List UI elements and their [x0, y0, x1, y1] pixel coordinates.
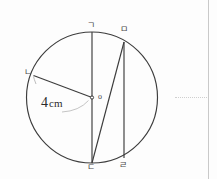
geometry-figure-page: ㄱ ㅁ ㄴ ㄷ ㄹ o 4cm [0, 0, 217, 179]
center-label-o: o [98, 93, 102, 101]
circle-diagram-canvas [0, 0, 217, 179]
vertex-label-nieun: ㄴ [24, 68, 32, 77]
vertex-label-rieul: ㄹ [119, 161, 127, 170]
radius-measurement-value: 4 [41, 95, 48, 110]
angle-arc-at-center-icon [62, 101, 89, 113]
center-point-dot [90, 96, 93, 99]
page-margin-rule [208, 0, 209, 179]
radius-measurement-label: 4cm [41, 96, 62, 110]
chord-mieum-digeut [92, 42, 124, 163]
vertex-label-mieum: ㅁ [120, 25, 128, 34]
angle-arc-at-nieun-icon [34, 77, 37, 85]
vertex-label-gieuk: ㄱ [87, 21, 95, 30]
vertex-label-digeut: ㄷ [87, 163, 95, 172]
radius-measurement-unit: cm [49, 97, 62, 109]
leader-dots-guide [175, 97, 207, 99]
